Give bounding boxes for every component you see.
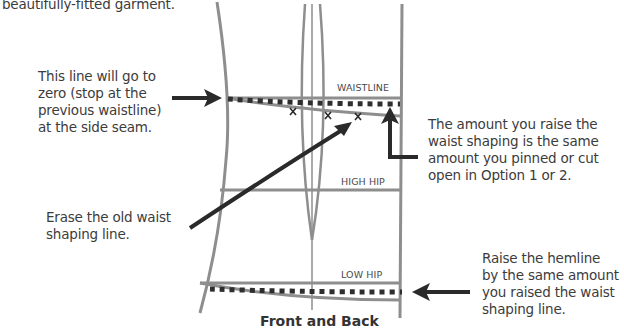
high-hip-label: HIGH HIP [341,176,385,187]
dart-right [312,4,324,240]
center-line [400,4,402,318]
dart-left [302,4,312,240]
hemline-note: Raise the hemline by the same amount you… [482,250,619,318]
intro-text: beautifully-fitted garment. [2,0,175,13]
raise-amount-note: The amount you raise the waist shaping i… [428,116,599,184]
waistline-label: WAISTLINE [337,82,389,93]
low-hip-label: LOW HIP [341,269,382,280]
diagram-caption: Front and Back [260,313,379,329]
side-seam-line [200,2,228,313]
erase-note: Erase the old waist shaping line. [46,209,171,243]
side-seam-note: This line will go to zero (stop at the p… [38,68,161,136]
